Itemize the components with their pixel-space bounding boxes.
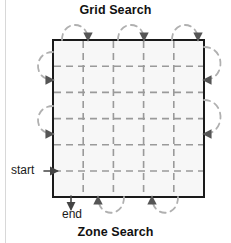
left-arc-1 bbox=[38, 52, 53, 80]
top-arc-2 bbox=[118, 25, 144, 40]
right-arc-1 bbox=[204, 47, 221, 80]
diagram-title-bottom: Zone Search bbox=[0, 225, 231, 239]
top-arc-3 bbox=[172, 25, 198, 40]
diagram-artwork bbox=[0, 0, 231, 243]
zone-search-diagram: Grid Search bbox=[0, 0, 231, 243]
bottom-arc-2 bbox=[152, 197, 178, 213]
left-arc-2 bbox=[38, 106, 53, 134]
bottom-arc-1 bbox=[98, 197, 124, 213]
end-label: end bbox=[62, 207, 82, 221]
top-arc-1 bbox=[62, 25, 88, 40]
right-arc-2 bbox=[204, 100, 221, 134]
start-label: start bbox=[11, 163, 34, 177]
